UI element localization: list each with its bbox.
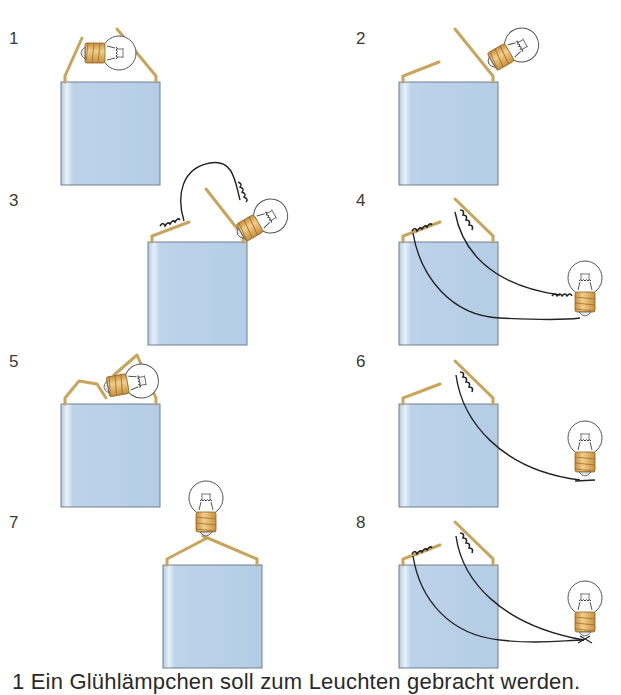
- panel-number-5: 5: [9, 352, 18, 372]
- panel-2: [399, 22, 545, 185]
- left-tab: [65, 38, 82, 82]
- panel-number-7: 7: [9, 513, 18, 533]
- panel-number-3: 3: [9, 191, 18, 211]
- bulb-icon: [189, 481, 223, 536]
- panel-number-2: 2: [356, 29, 365, 49]
- panel-6: [399, 361, 602, 507]
- bulb-icon: [229, 193, 294, 250]
- figure-caption: 1 Ein Glühlämpchen soll zum Leuchten geb…: [12, 669, 580, 695]
- bulb-icon: [81, 36, 136, 70]
- panel-number-6: 6: [356, 352, 365, 372]
- panel-4: [399, 199, 602, 345]
- panel-3: [148, 163, 294, 345]
- bulb-icon: [568, 421, 602, 476]
- panel-number-4: 4: [356, 191, 365, 211]
- panel-7: [163, 481, 262, 668]
- panel-number-1: 1: [9, 29, 18, 49]
- panel-1: [61, 29, 160, 185]
- bulb-icon: [568, 581, 602, 636]
- panel-5: [61, 355, 161, 507]
- bulb-icon: [568, 261, 602, 316]
- bulb-icon: [101, 361, 161, 404]
- panel-number-8: 8: [356, 513, 365, 533]
- panel-8: [399, 522, 602, 668]
